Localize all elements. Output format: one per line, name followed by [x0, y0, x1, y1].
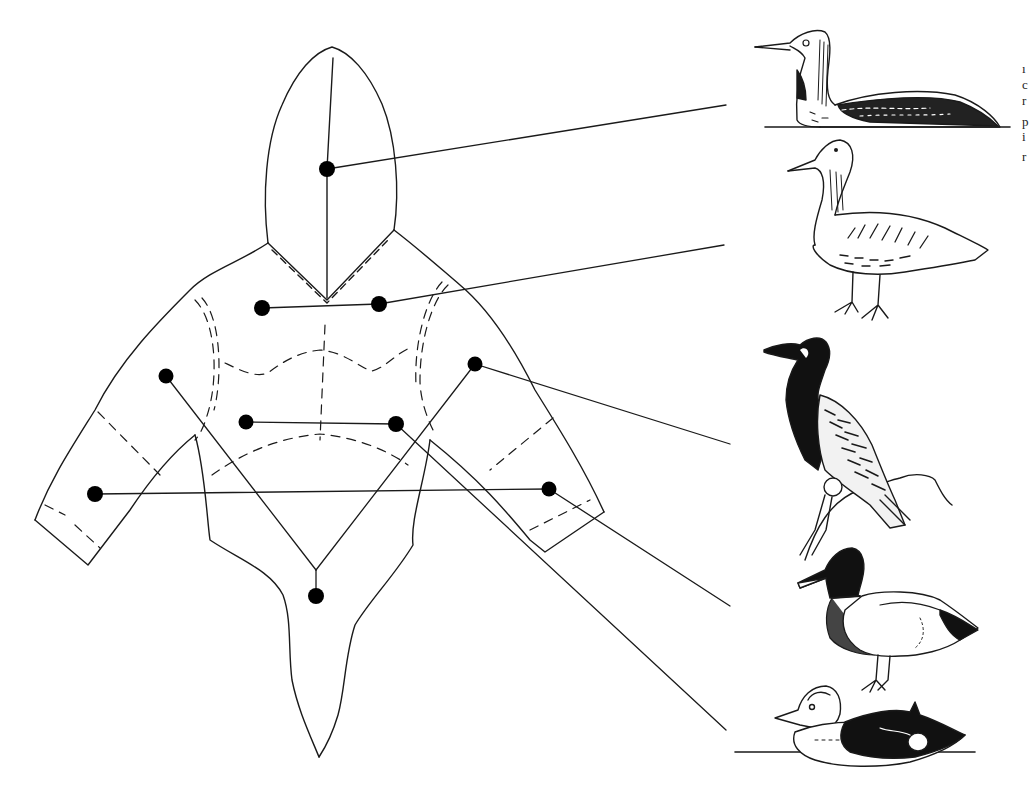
diagram-canvas: ı c r p i r	[0, 0, 1032, 797]
dot-upper-chest-right	[371, 296, 387, 312]
upper-chest-seam	[225, 348, 410, 375]
edge-text-fragment: p	[1022, 115, 1029, 128]
edge-text-fragment: r	[1022, 94, 1026, 107]
leader-lines	[95, 105, 730, 730]
dot-forearm-right	[542, 482, 557, 497]
lower-chest-seam	[212, 434, 408, 475]
edge-text-fragment: i	[1022, 130, 1026, 143]
leader-forearm-pair	[95, 489, 549, 494]
bird-mallard-illustration	[798, 548, 978, 692]
left-cuff-outline	[35, 435, 195, 565]
left-body-side	[195, 435, 319, 757]
dot-forearm-left	[87, 486, 103, 502]
location-dots	[87, 161, 557, 604]
leader-right-upperarm-v	[316, 364, 475, 570]
bird-cormorant-illustration	[764, 338, 952, 560]
dot-mid-chest-left	[239, 415, 254, 430]
hood-seam	[327, 58, 333, 298]
right-cuff-seam	[530, 500, 590, 530]
left-shoulder-outline	[35, 243, 268, 520]
right-armhole-seam	[420, 285, 448, 430]
leader-hood-to-loon	[327, 105, 726, 169]
leader-upper-chest-pair	[262, 304, 379, 308]
parka-diagram-svg	[0, 0, 1032, 797]
dot-hood	[319, 161, 335, 177]
edge-text-fragment: c	[1022, 78, 1028, 91]
dot-upper-arm-left	[159, 369, 174, 384]
leader-upperarm-to-cormorant	[475, 364, 730, 444]
parka-outline	[35, 47, 604, 757]
edge-text-fragment: ı	[1022, 62, 1026, 75]
hood-yoke-seam-dashed	[272, 238, 390, 303]
bird-goose-illustration	[788, 140, 988, 320]
dot-lower-body	[308, 588, 324, 604]
leader-forearm-to-mallard	[549, 489, 730, 606]
panel-seams	[45, 282, 590, 548]
right-body-side	[319, 440, 430, 757]
left-cuff-seam	[45, 505, 100, 548]
dot-upper-arm-right	[468, 357, 483, 372]
leader-left-upperarm-v	[166, 376, 316, 570]
dot-upper-chest-left	[254, 300, 270, 316]
hood-yoke-seam	[268, 230, 394, 300]
leader-upper-chest-to-goose	[379, 245, 724, 304]
left-armhole-seam	[195, 300, 214, 440]
right-cuff-outline	[430, 440, 604, 552]
hood-outline	[265, 47, 396, 243]
edge-text-fragment: r	[1022, 150, 1026, 163]
dot-mid-chest-right	[388, 416, 404, 432]
leader-mid-chest-to-eider	[396, 424, 726, 730]
bird-eider-illustration	[735, 686, 975, 766]
bird-loon-illustration	[755, 31, 1010, 127]
right-sleeve-band-seam	[490, 418, 553, 470]
left-sleeve-band-seam	[98, 412, 160, 475]
